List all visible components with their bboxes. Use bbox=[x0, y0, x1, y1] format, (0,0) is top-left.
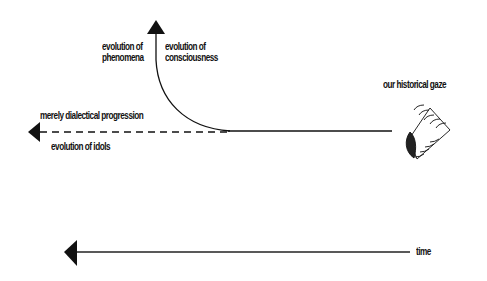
label-merely-dialectical-progression: merely dialectical progression bbox=[40, 110, 143, 121]
label-line: phenomena bbox=[102, 52, 144, 63]
eye-icon bbox=[406, 105, 450, 159]
upward-arrow bbox=[147, 20, 230, 131]
label-line: evolution of bbox=[102, 41, 144, 52]
label-our-historical-gaze: our historical gaze bbox=[383, 79, 446, 90]
diagram-canvas: evolution of phenomena evolution of cons… bbox=[0, 0, 487, 281]
label-evolution-of-phenomena: evolution of phenomena bbox=[102, 41, 144, 63]
label-evolution-of-consciousness: evolution of consciousness bbox=[165, 41, 218, 63]
dashed-arrow bbox=[28, 122, 228, 142]
time-arrow bbox=[64, 240, 410, 266]
label-evolution-of-idols: evolution of idols bbox=[51, 141, 110, 152]
label-line: consciousness bbox=[165, 52, 218, 63]
label-time: time bbox=[416, 246, 431, 257]
label-line: evolution of bbox=[165, 41, 218, 52]
